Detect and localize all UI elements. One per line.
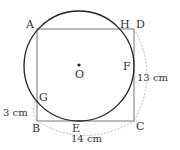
label-a: A [25, 18, 35, 31]
rectangle-abcd [37, 29, 134, 121]
label-g: G [39, 91, 48, 104]
label-o: O [75, 68, 84, 81]
dimension-label-bc: 14 cm [71, 133, 103, 144]
label-b: B [32, 122, 40, 135]
label-d: D [136, 18, 145, 31]
diagram-canvas: A H D F O G B E C 13 cm 3 cm 14 cm [0, 0, 180, 150]
center-point-o [77, 63, 80, 66]
label-h: H [120, 18, 130, 31]
geometry-figure: A H D F O G B E C 13 cm 3 cm 14 cm [0, 0, 180, 150]
dimension-label-cd: 13 cm [137, 72, 169, 83]
label-c: C [136, 120, 144, 133]
label-f: F [123, 60, 131, 73]
dimension-label-bg: 3 cm [3, 107, 28, 118]
